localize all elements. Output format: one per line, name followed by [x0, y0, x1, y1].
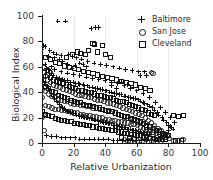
data-point-baltimore — [160, 115, 165, 120]
data-point-baltimore — [116, 124, 121, 129]
data-point-baltimore — [122, 84, 127, 89]
data-point-baltimore — [79, 57, 84, 62]
data-point-baltimore — [163, 132, 168, 137]
data-point-san-jose — [116, 119, 121, 124]
data-point-san-jose — [56, 96, 61, 101]
data-point-cleveland — [48, 75, 53, 80]
data-point-baltimore — [138, 99, 143, 104]
data-point-cleveland — [138, 119, 143, 124]
data-point-baltimore — [84, 65, 89, 70]
x-tick-mark — [74, 143, 75, 147]
data-point-baltimore — [119, 124, 124, 129]
legend-label: Baltimore — [152, 14, 191, 25]
legend-item-san-jose[interactable]: San Jose — [136, 26, 210, 37]
data-point-baltimore — [108, 90, 113, 95]
data-point-san-jose — [149, 120, 154, 125]
data-point-baltimore — [153, 100, 158, 105]
data-point-cleveland — [130, 103, 135, 108]
x-tick-label: 60 — [131, 148, 142, 158]
data-point-cleveland — [94, 124, 99, 129]
data-point-san-jose — [120, 105, 125, 110]
data-point-baltimore — [76, 113, 81, 118]
data-point-baltimore — [122, 125, 127, 130]
data-point-san-jose — [46, 104, 51, 109]
data-point-baltimore — [157, 113, 162, 118]
data-point-cleveland — [43, 84, 48, 89]
data-point-san-jose — [147, 128, 152, 133]
data-point-cleveland — [49, 89, 54, 94]
data-point-baltimore — [92, 137, 97, 142]
data-point-baltimore — [44, 133, 49, 138]
data-point-baltimore — [81, 62, 86, 67]
data-point-san-jose — [144, 124, 149, 129]
data-point-baltimore — [44, 84, 49, 89]
data-point-san-jose — [109, 118, 114, 123]
data-point-cleveland — [176, 114, 181, 119]
circle-marker-icon — [136, 26, 147, 37]
data-point-baltimore — [144, 132, 149, 137]
data-point-cleveland — [90, 71, 95, 76]
data-point-cleveland — [94, 105, 99, 110]
data-point-cleveland — [57, 80, 62, 85]
data-point-baltimore — [48, 48, 53, 53]
data-point-cleveland — [62, 63, 67, 68]
data-point-san-jose — [43, 103, 48, 108]
data-point-cleveland — [78, 122, 83, 127]
data-point-baltimore — [67, 52, 72, 57]
data-point-cleveland — [116, 112, 121, 117]
data-point-cleveland — [67, 65, 72, 70]
data-point-baltimore — [57, 57, 62, 62]
x-tick-mark — [168, 143, 169, 147]
data-point-cleveland — [57, 61, 62, 66]
data-point-baltimore — [128, 95, 133, 100]
data-point-baltimore — [93, 25, 98, 30]
data-point-cleveland — [64, 82, 69, 87]
data-point-baltimore — [150, 105, 155, 110]
data-point-baltimore — [171, 127, 176, 132]
data-point-san-jose — [138, 120, 143, 125]
gridline-vertical — [105, 16, 106, 143]
data-point-cleveland — [86, 90, 91, 95]
data-point-cleveland — [87, 123, 92, 128]
data-point-san-jose — [52, 107, 57, 112]
data-point-cleveland — [76, 88, 81, 93]
data-point-baltimore — [86, 115, 91, 120]
data-point-san-jose — [141, 126, 146, 131]
data-point-baltimore — [60, 59, 65, 64]
data-point-baltimore — [131, 96, 136, 101]
data-point-san-jose — [114, 103, 119, 108]
data-point-san-jose — [45, 77, 50, 82]
data-point-baltimore — [57, 103, 62, 108]
data-point-baltimore — [98, 119, 103, 124]
data-point-san-jose — [84, 113, 89, 118]
data-point-baltimore — [46, 86, 51, 91]
data-point-san-jose — [86, 95, 91, 100]
data-point-san-jose — [150, 129, 155, 134]
data-point-san-jose — [78, 112, 83, 117]
legend-item-cleveland[interactable]: Cleveland — [136, 38, 210, 49]
data-point-baltimore — [141, 100, 146, 105]
data-point-cleveland — [76, 67, 81, 72]
data-point-cleveland — [79, 88, 84, 93]
legend-item-baltimore[interactable]: Baltimore — [136, 14, 210, 25]
data-point-san-jose — [161, 131, 166, 136]
plus-marker-icon — [136, 14, 147, 25]
data-point-cleveland — [59, 118, 64, 123]
data-point-baltimore — [63, 108, 68, 113]
y-tick-mark — [38, 143, 42, 144]
data-point-cleveland — [128, 116, 133, 121]
data-point-san-jose — [45, 67, 50, 72]
data-point-cleveland — [64, 55, 69, 60]
x-axis-label: Relative Urbanization — [42, 161, 200, 172]
data-point-cleveland — [65, 119, 70, 124]
data-point-baltimore — [112, 123, 117, 128]
data-point-baltimore — [56, 100, 61, 105]
data-point-san-jose — [155, 137, 160, 142]
data-point-baltimore — [90, 76, 95, 81]
data-point-baltimore — [59, 70, 64, 75]
data-point-baltimore — [114, 123, 119, 128]
data-point-san-jose — [116, 112, 121, 117]
data-point-baltimore — [120, 125, 125, 130]
data-point-cleveland — [122, 114, 127, 119]
data-point-baltimore — [74, 56, 79, 61]
